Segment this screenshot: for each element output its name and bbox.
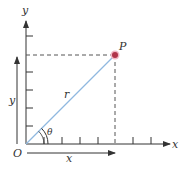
y-length-label: y bbox=[8, 94, 16, 107]
radius-line bbox=[26, 55, 115, 144]
x-ticks bbox=[44, 137, 151, 144]
y-axis-label: y bbox=[21, 4, 29, 17]
x-length-label: x bbox=[66, 152, 73, 165]
radius-label: r bbox=[64, 88, 70, 101]
angle-arc-inner bbox=[39, 131, 44, 144]
y-ticks bbox=[26, 36, 33, 126]
polar-diagram: y x O P r θ y x bbox=[0, 0, 192, 173]
origin-label: O bbox=[13, 147, 22, 160]
point-label: P bbox=[118, 40, 127, 53]
angle-label: θ bbox=[47, 127, 53, 137]
x-axis-label: x bbox=[172, 138, 179, 151]
point-p bbox=[112, 52, 118, 58]
